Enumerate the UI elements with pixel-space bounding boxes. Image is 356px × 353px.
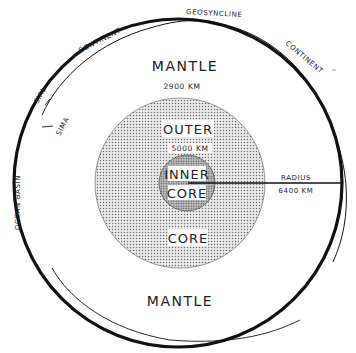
continent-right-label: CONTINENT [284, 39, 325, 75]
geosyncline-label: GEOSYNCLINE [186, 8, 243, 19]
mantle-bottom-label: MANTLE [147, 293, 213, 309]
mantle-top-label: MANTLE [152, 58, 218, 74]
inner-core-label-bottom: CORE [167, 186, 208, 201]
ocean-basin-label: OCEAN BASIN [14, 175, 22, 230]
outer-core-label: OUTER [163, 122, 213, 137]
earth-structure-diagram: MANTLE MANTLE OUTER CORE INNER CORE 2900… [0, 0, 356, 353]
radius-label: RADIUS [281, 174, 311, 182]
inner-core-label: INNER [164, 167, 210, 182]
depth-2900-label: 2900 KM [163, 82, 200, 91]
outer-core-label-bottom: CORE [168, 231, 209, 246]
depth-5000-label: 5000 KM [171, 144, 208, 153]
sima-label: SIMA [55, 116, 71, 137]
sial-label: SIAL [33, 86, 48, 105]
radius-value-label: 6400 KM [279, 187, 314, 195]
sima-pointer [42, 126, 53, 127]
